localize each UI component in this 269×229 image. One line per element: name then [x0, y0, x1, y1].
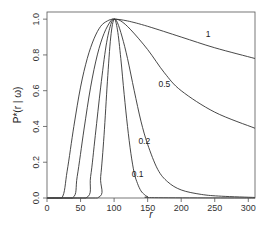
- x-tick-label: 250: [207, 203, 222, 213]
- curve-label: 1: [206, 29, 211, 39]
- y-axis: 0.00.20.40.60.81.0: [31, 13, 47, 204]
- x-tick-label: 150: [140, 203, 155, 213]
- curve-label: 0.5: [159, 79, 171, 89]
- y-axis-title: P*(r | ω): [12, 87, 23, 124]
- y-tick-label: 0.0: [31, 192, 41, 205]
- curve-label: 0.1: [132, 169, 144, 179]
- y-tick-label: 0.6: [31, 84, 41, 97]
- x-tick-label: 0: [44, 203, 49, 213]
- curve-omega-0.5: [47, 19, 255, 198]
- x-tick-label: 200: [174, 203, 189, 213]
- curve-label: 0.2: [138, 136, 150, 146]
- curves-group: [47, 19, 255, 198]
- y-tick-label: 0.2: [31, 156, 41, 169]
- curve-labels-group: 10.50.20.1: [132, 29, 211, 179]
- chart: 10.50.20.1 050100150200250300 0.00.20.40…: [0, 0, 269, 229]
- x-tick-label: 100: [107, 203, 122, 213]
- y-tick-label: 0.4: [31, 120, 41, 133]
- x-tick-label: 300: [241, 203, 256, 213]
- x-tick-label: 50: [76, 203, 86, 213]
- y-tick-label: 0.8: [31, 49, 41, 62]
- y-tick-label: 1.0: [31, 13, 41, 26]
